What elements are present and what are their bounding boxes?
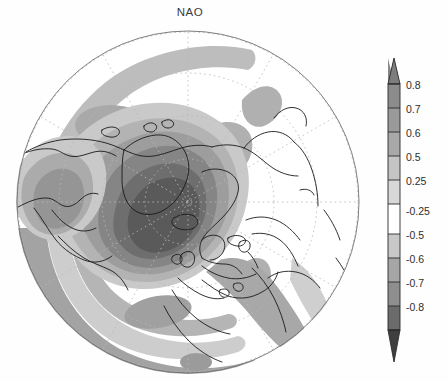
colorbar-tick-4: 0.25	[406, 176, 426, 187]
colorbar-tick-8: -0.7	[406, 278, 424, 289]
colorbar-tick-7: -0.6	[406, 254, 424, 265]
polar-map-svg	[6, 22, 370, 378]
colorbar-tick-5: -0.25	[406, 206, 430, 217]
colorbar-tick-9: -0.8	[406, 302, 424, 313]
colorbar-bands	[388, 58, 400, 362]
colorbar: 0.8 0.7 0.6 0.5 0.25 -0.25 -0.5 -0.6 -0.…	[380, 56, 446, 368]
shaded-field	[13, 30, 360, 378]
page-title: NAO	[0, 6, 380, 18]
colorbar-tick-6: -0.5	[406, 230, 424, 241]
colorbar-tick-1: 0.7	[406, 104, 421, 115]
band-far-south-oval	[180, 353, 212, 371]
nao-figure: NAO	[0, 0, 448, 382]
colorbar-tick-3: 0.5	[406, 152, 421, 163]
polar-map	[6, 22, 370, 378]
colorbar-tick-0: 0.8	[406, 80, 421, 91]
colorbar-tick-2: 0.6	[406, 128, 421, 139]
